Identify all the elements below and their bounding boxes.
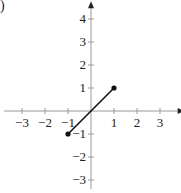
x-tick-label: −2 [38, 115, 52, 130]
x-tick-label: 1 [111, 115, 118, 130]
endpoint-dot [111, 85, 116, 90]
y-tick-label: 2 [80, 57, 87, 72]
x-axis-arrow-icon [178, 108, 181, 114]
x-tick-label: 2 [134, 115, 141, 130]
y-tick-label: −3 [72, 172, 86, 187]
y-tick-label: 1 [80, 80, 87, 95]
axes [4, 1, 181, 189]
y-axis-arrow-icon [88, 1, 94, 8]
tick-labels: −3−2−11234321−1−2−3 [15, 11, 163, 187]
chart-plot: −3−2−11234321−1−2−3 [0, 0, 181, 193]
y-tick-label: −2 [72, 149, 86, 164]
y-tick-label: 4 [80, 11, 87, 26]
x-tick-label: 3 [157, 115, 164, 130]
y-tick-label: 3 [80, 34, 87, 49]
endpoint-dot [65, 131, 70, 136]
x-tick-label: −3 [15, 115, 29, 130]
